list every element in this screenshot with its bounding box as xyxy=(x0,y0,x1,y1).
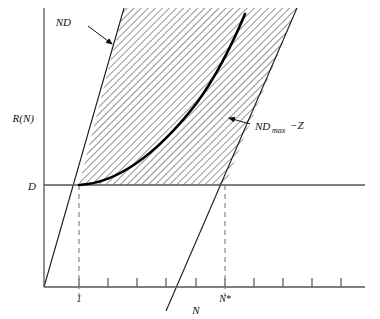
figure-container: ND R(N) D N 1 N* ND max −Z xyxy=(0,0,380,319)
curve-label-subscript: max xyxy=(272,126,286,135)
band-label: ND xyxy=(55,16,71,28)
annotation-arrow-band xyxy=(88,26,112,44)
curve-label-main: ND xyxy=(254,120,270,132)
x-axis-label: N xyxy=(191,304,200,316)
curve-label-tail: −Z xyxy=(290,119,304,131)
diagram-canvas: ND R(N) D N 1 N* ND max −Z xyxy=(0,0,380,319)
hatched-band-nd xyxy=(79,8,297,185)
d-level-label: D xyxy=(27,180,36,192)
x-tick-label-one: 1 xyxy=(77,293,82,304)
x-axis-ticks xyxy=(79,278,341,287)
curve-label-group: ND max −Z xyxy=(254,119,304,135)
x-tick-label-n-star: N* xyxy=(218,293,231,304)
y-axis-label: R(N) xyxy=(12,112,35,125)
